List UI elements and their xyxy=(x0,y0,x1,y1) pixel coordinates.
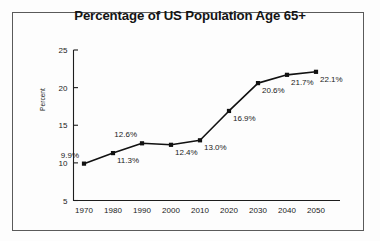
data-point-marker xyxy=(314,70,318,74)
data-point-label: 13.0% xyxy=(204,143,227,152)
x-tick-label: 2020 xyxy=(220,206,238,215)
x-tick-label: 2030 xyxy=(249,206,267,215)
x-tick-label: 1980 xyxy=(104,206,122,215)
chart-figure: Percentage of US Population Age 65+ Perc… xyxy=(0,0,380,241)
y-tick-label: 20 xyxy=(59,84,68,93)
x-tick-label: 2010 xyxy=(191,206,209,215)
data-point-label: 12.4% xyxy=(175,148,198,157)
data-point-label: 20.6% xyxy=(262,86,285,95)
y-tick-label: 15 xyxy=(59,121,68,130)
y-tick-label: 25 xyxy=(59,46,68,55)
data-point-marker xyxy=(198,138,202,142)
y-axis-ticks: 510152025 xyxy=(59,46,78,206)
data-point-marker xyxy=(82,162,86,166)
x-tick-label: 2000 xyxy=(162,206,180,215)
x-tick-label: 2040 xyxy=(278,206,296,215)
data-point-label: 16.9% xyxy=(233,114,256,123)
axis-lines xyxy=(74,50,341,201)
x-tick-label: 1990 xyxy=(133,206,151,215)
data-point-label: 21.7% xyxy=(291,78,314,87)
data-point-marker xyxy=(111,151,115,155)
data-point-marker xyxy=(256,81,260,85)
data-point-label: 11.3% xyxy=(117,156,139,165)
x-tick-label: 2050 xyxy=(307,206,325,215)
data-point-labels: 9.9%11.3%12.6%12.4%13.0%16.9%20.6%21.7%2… xyxy=(61,75,343,165)
y-tick-label: 10 xyxy=(59,159,68,168)
data-point-marker xyxy=(140,141,144,145)
x-tick-label: 1970 xyxy=(75,206,93,215)
data-point-label: 22.1% xyxy=(320,75,343,84)
x-axis-ticks: 197019801990200020102020203020402050 xyxy=(75,206,325,215)
data-point-label: 9.9% xyxy=(61,151,79,160)
data-point-marker xyxy=(285,73,289,77)
y-tick-label: 5 xyxy=(63,197,68,206)
data-point-label: 12.6% xyxy=(114,130,137,139)
data-point-marker xyxy=(169,143,173,147)
plot-area: 510152025 197019801990200020102020203020… xyxy=(0,0,380,241)
axis-corner-line xyxy=(74,50,341,201)
data-point-marker xyxy=(227,109,231,113)
